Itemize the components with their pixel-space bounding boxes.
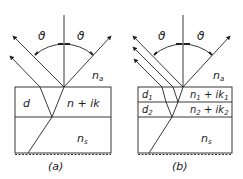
layer2-index-label: n2 + ik2 — [190, 105, 229, 117]
reflected-ray-1 — [133, 36, 183, 87]
angle-right-label: ϑ — [77, 30, 84, 42]
angle-left-label: ϑ — [158, 30, 165, 42]
layer1-index-label: n1 + ik1 — [190, 90, 229, 102]
ambient-index-label: na — [213, 70, 224, 83]
transmitted-ray — [149, 117, 172, 153]
incident-ray — [64, 36, 111, 87]
substrate-index-label: ns — [77, 133, 88, 146]
reflected-ray-3 — [134, 59, 162, 87]
substrate-index-label: ns — [201, 133, 212, 146]
reflected-ray-2 — [10, 56, 40, 87]
panel-b-graphic — [133, 15, 232, 155]
angle-left-label: ϑ — [38, 30, 45, 42]
caption-a: (a) — [48, 161, 63, 172]
angle-right-label: ϑ — [197, 30, 204, 42]
film-path-1 — [173, 87, 183, 102]
reflected-ray-1 — [13, 36, 64, 87]
panel-a-graphic — [10, 15, 111, 155]
film-index-label: n + ik — [67, 98, 100, 109]
reflected-ray-2 — [133, 47, 173, 87]
film-thickness-label: d — [23, 98, 30, 109]
ambient-index-label: na — [92, 70, 103, 83]
layer2-thickness-label: d2 — [142, 105, 153, 117]
layer1-thickness-label: d1 — [142, 90, 153, 102]
film-path — [40, 87, 64, 117]
caption-b: (b) — [172, 161, 188, 172]
transmitted-ray — [28, 117, 52, 153]
